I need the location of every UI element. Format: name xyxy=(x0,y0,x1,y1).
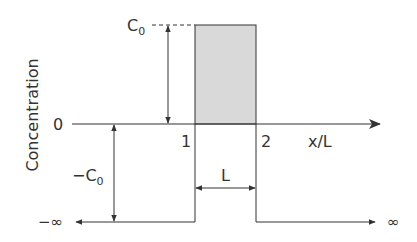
y-axis-label: Concentration xyxy=(23,58,42,171)
pos-infinity-label: ∞ xyxy=(387,213,400,231)
concentration-diagram: Concentration 0 C0 −C0 1 2 x/L L −∞ ∞ xyxy=(0,0,417,242)
x-axis-label: x/L xyxy=(308,132,332,151)
concentration-pulse xyxy=(195,25,256,124)
x-tick-1: 1 xyxy=(181,132,191,151)
c0-label: C0 xyxy=(127,16,145,38)
neg-infinity-label: −∞ xyxy=(38,213,63,231)
x-tick-2: 2 xyxy=(261,132,271,151)
width-label: L xyxy=(221,166,230,185)
neg-c0-label: −C0 xyxy=(72,166,104,188)
zero-label: 0 xyxy=(53,115,63,134)
